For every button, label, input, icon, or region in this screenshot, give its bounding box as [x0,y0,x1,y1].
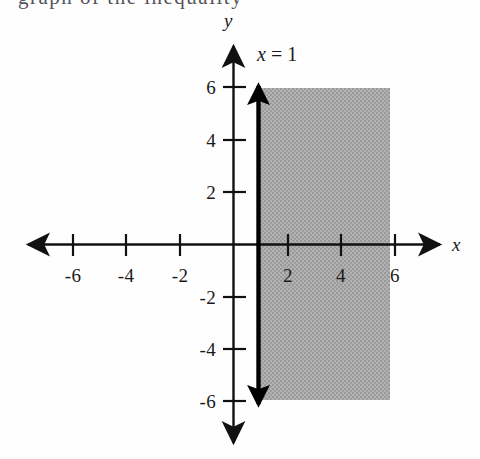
y-tick-label-neg4: -4 [200,340,216,359]
line-equation-relation: = [271,43,282,65]
line-equation-label: x = 1 [257,44,297,64]
coordinate-plane-graph [0,0,480,459]
y-tick-label-4: 4 [206,131,216,150]
x-axis-label: x [452,235,460,254]
y-axis-label: y [224,11,232,30]
y-tick-label-2: 2 [206,183,216,202]
x-tick-label-neg4: -4 [118,266,134,285]
line-equation-variable: x [257,43,266,65]
y-tick-label-neg6: -6 [200,392,216,411]
x-tick-label-4: 4 [336,266,346,285]
y-tick-label-6: 6 [206,78,216,97]
x-tick-label-neg2: -2 [172,266,188,285]
x-tick-label-neg6: -6 [65,266,81,285]
x-tick-label-6: 6 [390,266,400,285]
x-tick-label-2: 2 [283,266,293,285]
line-equation-value: 1 [287,43,297,65]
figure-root: graph of the inequality [0,0,480,459]
y-tick-label-neg2: -2 [200,288,216,307]
